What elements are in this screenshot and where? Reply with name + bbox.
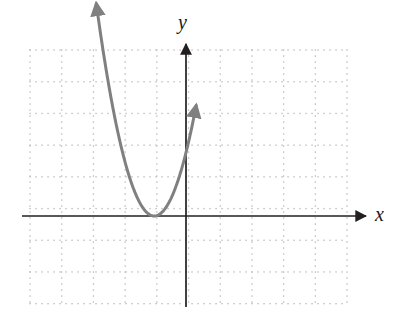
parabola-curve-group [96, 4, 196, 216]
grid-minor-dots [29, 49, 347, 304]
graph-figure: y x [0, 0, 402, 326]
axes [22, 44, 366, 307]
x-axis-label: x [375, 204, 384, 224]
parabola-curve [96, 4, 196, 216]
y-axis-label: y [178, 12, 187, 32]
grid [29, 49, 347, 304]
coordinate-plane-svg [0, 0, 402, 326]
